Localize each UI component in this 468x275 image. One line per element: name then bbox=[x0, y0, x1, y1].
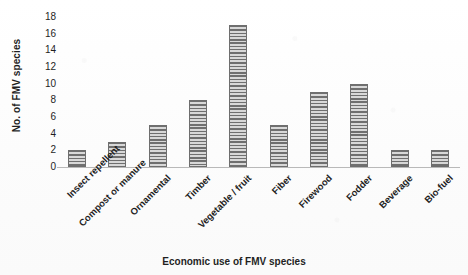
bar-slot bbox=[420, 17, 460, 167]
bar-series bbox=[57, 17, 460, 167]
plot-area bbox=[57, 17, 460, 167]
bar-slot bbox=[57, 17, 97, 167]
y-axis-tick-16: 16 bbox=[45, 29, 56, 39]
bar-slot bbox=[339, 17, 379, 167]
y-axis-title: No. of FMV species bbox=[6, 0, 28, 170]
x-axis-tick-labels: Insect repellentCompost or manureOrnamen… bbox=[57, 169, 460, 239]
y-axis-tick-2: 2 bbox=[50, 145, 56, 155]
bar-chart: No. of FMV species 024681012141618 Insec… bbox=[0, 0, 468, 275]
x-axis-line bbox=[57, 167, 460, 168]
bar-slot bbox=[259, 17, 299, 167]
x-axis-title: Economic use of FMV species bbox=[0, 256, 468, 267]
bar-slot bbox=[218, 17, 258, 167]
x-axis-tick-label: Ornamental bbox=[89, 173, 173, 257]
bar bbox=[350, 84, 368, 167]
bar-slot bbox=[138, 17, 178, 167]
bar bbox=[270, 125, 288, 167]
y-axis-tick-18: 18 bbox=[45, 12, 56, 22]
bar bbox=[229, 25, 247, 167]
x-axis-tick-label: Insect repellent bbox=[65, 173, 92, 200]
bar bbox=[68, 150, 86, 167]
bar-slot bbox=[380, 17, 420, 167]
y-axis-tick-4: 4 bbox=[50, 129, 56, 139]
y-axis-tick-labels: 024681012141618 bbox=[32, 0, 56, 180]
y-axis-tick-14: 14 bbox=[45, 45, 56, 55]
y-axis-title-text: No. of FMV species bbox=[12, 38, 23, 132]
y-axis-tick-10: 10 bbox=[45, 79, 56, 89]
y-axis-tick-0: 0 bbox=[50, 162, 56, 172]
bar bbox=[149, 125, 167, 167]
bar bbox=[189, 100, 207, 167]
y-axis-tick-12: 12 bbox=[45, 62, 56, 72]
y-axis-tick-8: 8 bbox=[50, 95, 56, 105]
bar bbox=[431, 150, 449, 167]
bar-slot bbox=[299, 17, 339, 167]
y-axis-tick-6: 6 bbox=[50, 112, 56, 122]
bar bbox=[391, 150, 409, 167]
bar bbox=[310, 92, 328, 167]
bar-slot bbox=[178, 17, 218, 167]
bar-slot bbox=[97, 17, 137, 167]
